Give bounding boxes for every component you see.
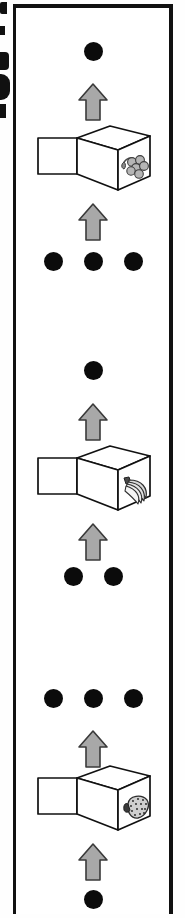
up-arrow-icon [13, 842, 173, 882]
up-arrow-icon [13, 522, 173, 562]
margin-ink-fragment [0, 26, 5, 35]
dot [84, 689, 103, 708]
up-arrow-icon [13, 729, 173, 769]
dot [84, 361, 103, 380]
scanned-page [0, 0, 185, 918]
dot [44, 252, 63, 271]
up-arrow-icon [13, 402, 173, 442]
box-with-strawberry [13, 764, 173, 836]
dot [124, 689, 143, 708]
box-with-bananas [13, 444, 173, 516]
up-arrow-icon [13, 82, 173, 122]
dot [84, 252, 103, 271]
box-with-grapes [13, 124, 173, 196]
dot-group-1-top [13, 42, 173, 61]
dot-group-1-bottom [13, 252, 173, 271]
margin-ink-fragment [0, 104, 6, 118]
margin-ink-fragment [0, 52, 9, 70]
dot [124, 252, 143, 271]
dot [84, 42, 103, 61]
dot-group-2-top [13, 361, 173, 380]
dot [44, 689, 63, 708]
up-arrow-icon [13, 202, 173, 242]
dot [64, 567, 83, 586]
dot [84, 890, 103, 909]
margin-ink-fragment [0, 2, 7, 14]
sequence-stack [13, 4, 173, 918]
dot [104, 567, 123, 586]
margin-ink-fragment [0, 74, 10, 100]
dot-group-2-bottom [13, 567, 173, 586]
dot-group-3-top [13, 689, 173, 708]
dot-group-3-bottom [13, 890, 173, 909]
